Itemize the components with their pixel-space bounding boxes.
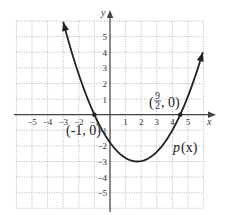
x-tick-label: −4 xyxy=(43,117,53,127)
root-point xyxy=(92,113,96,117)
x-axis-label: x xyxy=(206,116,212,127)
curve-arrow-right-icon xyxy=(197,52,204,62)
y-tick-label: 3 xyxy=(103,63,108,73)
y-tick-label: 4 xyxy=(103,48,108,58)
parabola-graph: x y −5−4−3−2−112345−5−4−3−2−112345 (-1, … xyxy=(0,0,231,215)
y-tick-label: 5 xyxy=(103,32,108,42)
y-tick-label: −3 xyxy=(97,157,107,167)
function-arg: (x) xyxy=(181,140,198,156)
y-axis-label: y xyxy=(100,7,106,18)
root-point xyxy=(178,113,182,117)
x-tick-label: 5 xyxy=(186,117,191,127)
root-right-denominator: 2 xyxy=(155,100,160,111)
y-tick-label: −5 xyxy=(97,188,107,198)
y-tick-label: −4 xyxy=(97,173,107,183)
root-right-open-paren: ( xyxy=(149,95,154,111)
y-tick-label: −2 xyxy=(97,141,107,151)
y-tick-label: 2 xyxy=(103,79,108,89)
root-label-left: (-1, 0) xyxy=(66,123,101,139)
curve-arrow-left-icon xyxy=(62,22,69,32)
axes: x y xyxy=(14,7,216,212)
root-label-right: ( 9 2 , 0) xyxy=(149,90,180,111)
x-tick-label: −5 xyxy=(27,117,37,127)
x-tick-label: 3 xyxy=(155,117,160,127)
x-tick-label: 1 xyxy=(123,117,128,127)
function-name: p xyxy=(172,140,180,155)
x-tick-label: 2 xyxy=(139,117,144,127)
y-tick-label: 1 xyxy=(103,95,108,105)
y-axis-arrow-icon xyxy=(107,10,113,18)
function-label: p (x) xyxy=(172,140,198,156)
root-right-rest: , 0) xyxy=(161,95,180,111)
